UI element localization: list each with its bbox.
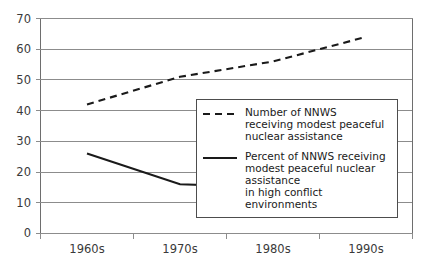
y-tick-label-40: 40	[16, 104, 31, 118]
y-tickmarks	[36, 19, 41, 234]
legend-label-number-of-nnws: Number of NNWS receiving modest peaceful…	[245, 106, 384, 143]
legend-entry-number-of-nnws: Number of NNWS receiving modest peaceful…	[203, 106, 390, 143]
x-tick-label-1970s: 1970s	[162, 242, 197, 256]
x-axis-labels: 1960s 1970s 1980s 1990s	[69, 242, 383, 256]
y-tick-label-50: 50	[16, 73, 31, 87]
y-tick-label-60: 60	[16, 42, 31, 56]
legend-entry-percent-of-nnws: Percent of NNWS receiving modest peacefu…	[203, 150, 390, 211]
x-tick-label-1990s: 1990s	[348, 242, 383, 256]
legend-label-percent-of-nnws: Percent of NNWS receiving modest peacefu…	[245, 150, 390, 211]
solid-line-swatch-icon	[203, 152, 237, 166]
y-tick-label-30: 30	[16, 134, 31, 148]
y-axis-labels: 70 60 50 40 30 20 10 0	[16, 12, 31, 241]
y-tick-label-0: 0	[24, 226, 31, 240]
dashed-line-swatch-icon	[203, 108, 237, 122]
chart-legend: Number of NNWS receiving modest peaceful…	[196, 99, 398, 218]
x-tickmarks	[41, 233, 413, 239]
series-line-number-of-nnws	[87, 37, 366, 105]
y-tick-label-70: 70	[16, 12, 31, 26]
y-tick-label-20: 20	[16, 165, 31, 179]
x-tick-label-1980s: 1980s	[255, 242, 290, 256]
x-tick-label-1960s: 1960s	[69, 242, 104, 256]
y-tick-label-10: 10	[16, 196, 31, 210]
line-chart: 70 60 50 40 30 20 10 0 1960s 1970s 1980s…	[0, 0, 446, 267]
